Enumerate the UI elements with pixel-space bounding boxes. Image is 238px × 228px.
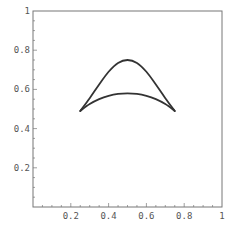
plot-frame — [33, 11, 222, 207]
x-axis-tick-labels: 0.20.40.60.81 — [63, 211, 225, 221]
x-tick-label: 0.6 — [138, 211, 154, 221]
x-tick-label: 0.2 — [63, 211, 79, 221]
y-tick-label: 0.2 — [14, 163, 30, 173]
data-series — [80, 60, 175, 111]
axis-ticks — [33, 21, 213, 207]
lower-curve — [80, 93, 175, 111]
y-tick-label: 0.8 — [14, 45, 30, 55]
x-tick-label: 0.8 — [176, 211, 192, 221]
y-tick-label: 0.6 — [14, 84, 30, 94]
y-axis-tick-labels: 0.20.40.60.81 — [14, 6, 30, 173]
y-tick-label: 1 — [25, 6, 30, 16]
upper-curve — [80, 60, 175, 111]
y-tick-label: 0.4 — [14, 124, 30, 134]
x-tick-label: 0.4 — [100, 211, 116, 221]
chart-canvas: 0.20.40.60.81 0.20.40.60.81 — [0, 0, 238, 228]
x-tick-label: 1 — [219, 211, 224, 221]
